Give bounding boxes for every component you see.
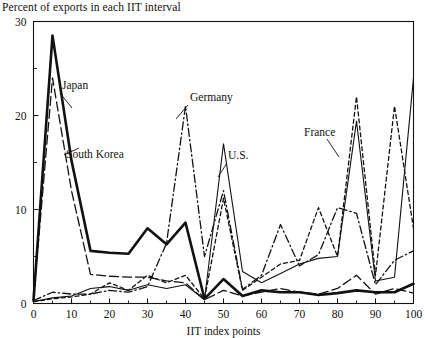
x-tick-label: 100 [405, 308, 423, 320]
x-tick-label: 60 [256, 308, 268, 320]
x-tick-label: 90 [370, 308, 382, 320]
chart-figure: Percent of exports in each IIT interval … [0, 0, 425, 338]
x-tick-label: 50 [218, 308, 230, 320]
plot-frame [34, 22, 414, 304]
series-label-u-s: U.S. [228, 149, 249, 161]
x-tick-label: 10 [66, 308, 78, 320]
series-leader-france [327, 139, 339, 157]
series-leader-u-s [218, 163, 227, 177]
y-tick-label: 0 [21, 298, 27, 310]
series-leader-germany [176, 105, 188, 119]
series-line-france [34, 97, 414, 302]
x-axis-title: IIT index points [187, 325, 261, 338]
series-label-group: JapanSouth KoreaGermanyU.S.France [60, 79, 339, 177]
x-tick-label: 20 [104, 308, 116, 320]
x-tick-label: 40 [180, 308, 192, 320]
series-label-germany: Germany [190, 91, 233, 104]
y-tick-label: 10 [15, 204, 27, 216]
x-tick-label: 0 [31, 308, 37, 320]
x-tick-label: 70 [294, 308, 306, 320]
x-tick-label: 30 [142, 308, 154, 320]
series-label-france: France [304, 126, 335, 138]
series-line-south-korea [34, 78, 414, 300]
series-label-japan: Japan [62, 79, 88, 92]
chart-plot-area: 01020304050607080901000102030IIT index p… [0, 0, 425, 338]
y-tick-label: 30 [15, 16, 27, 28]
x-tick-label: 80 [332, 308, 344, 320]
series-line-u-s [34, 78, 414, 302]
y-tick-label: 20 [15, 110, 27, 122]
